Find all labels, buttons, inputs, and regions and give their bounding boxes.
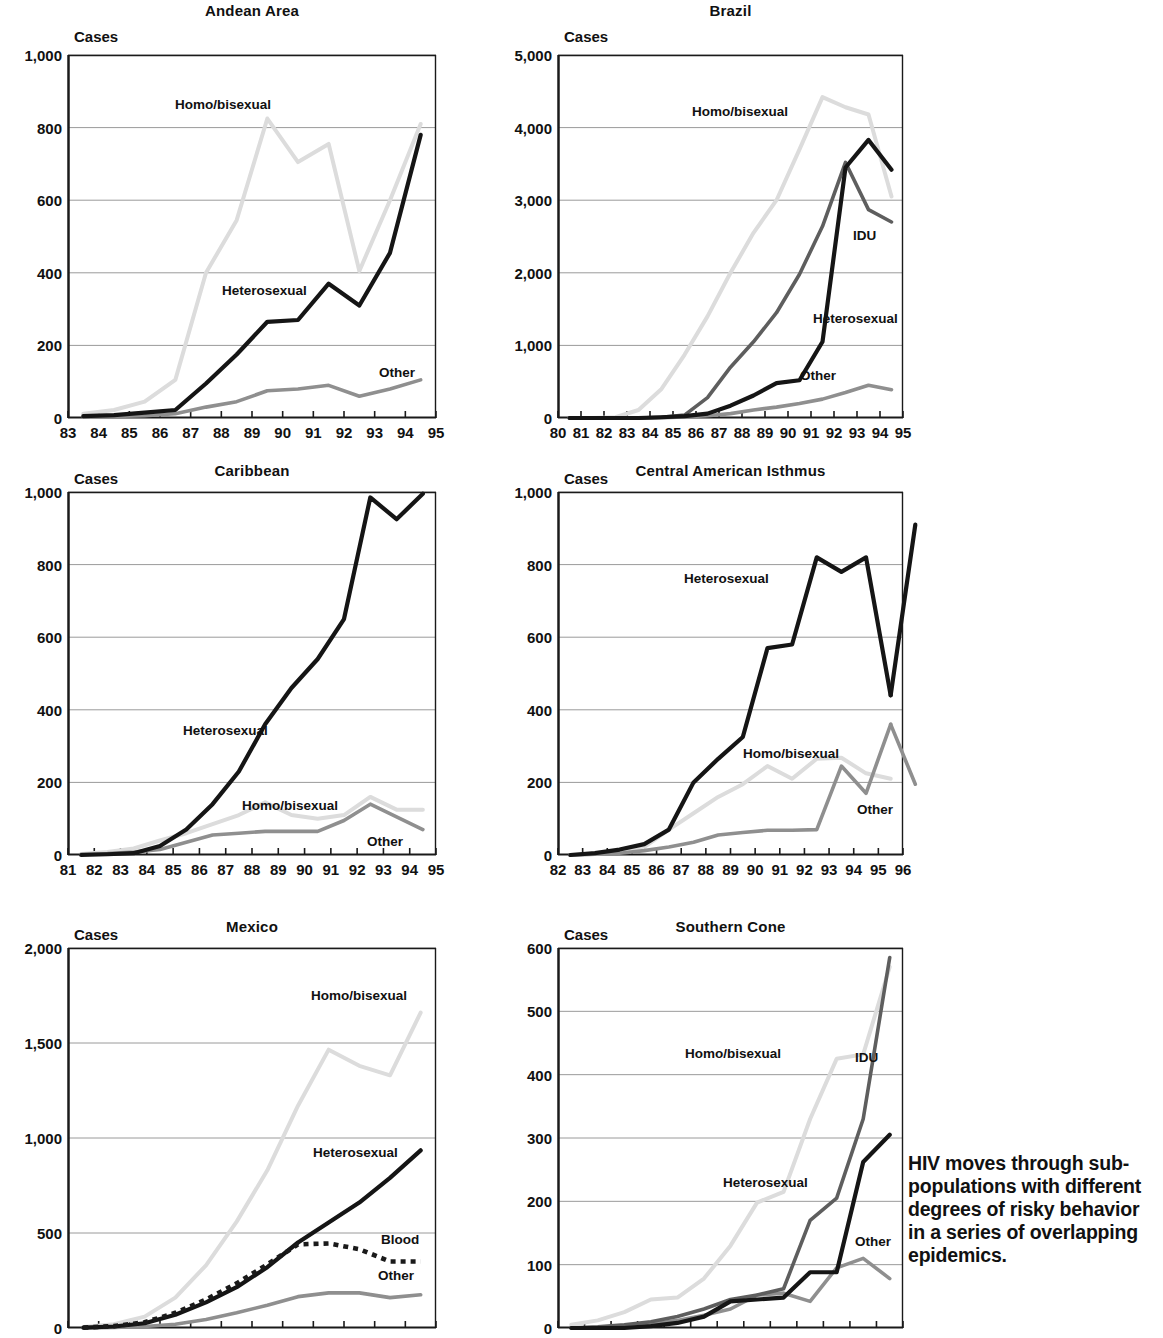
x-tick-label: 93 (375, 861, 392, 878)
series-label: Heterosexual (222, 283, 307, 298)
x-tick-label: 82 (596, 424, 613, 441)
y-tick-label: 200 (2, 774, 62, 791)
series-label: Homo/bisexual (692, 104, 788, 119)
plot-svg (68, 492, 436, 881)
x-tick-label: 87 (673, 861, 690, 878)
y-tick-label: 0 (492, 410, 552, 427)
caption-line: HIV moves through sub- (908, 1152, 1160, 1175)
y-tick-label: 200 (492, 1193, 552, 1210)
series-label: Heterosexual (813, 311, 898, 326)
y-tick-label: 500 (492, 1003, 552, 1020)
y-tick-label: 0 (492, 1320, 552, 1337)
x-tick-label: 92 (826, 424, 843, 441)
y-tick-label: 1,000 (492, 484, 552, 501)
y-tick-label: 400 (2, 701, 62, 718)
x-tick-label: 87 (182, 424, 199, 441)
x-tick-label: 84 (139, 861, 156, 878)
plot-svg (68, 55, 436, 444)
y-tick-label: 0 (2, 1320, 62, 1337)
x-tick-label: 92 (336, 424, 353, 441)
caption-line: degrees of risky behavior (908, 1198, 1160, 1221)
x-tick-label: 86 (152, 424, 169, 441)
y-tick-label: 200 (2, 337, 62, 354)
y-tick-label: 0 (2, 410, 62, 427)
x-tick-label: 83 (574, 861, 591, 878)
x-tick-label: 94 (845, 861, 862, 878)
figure-caption: HIV moves through sub-populations with d… (908, 1152, 1160, 1267)
x-tick-label: 94 (397, 424, 414, 441)
y-tick-label: 2,000 (2, 940, 62, 957)
x-tick-label: 85 (165, 861, 182, 878)
x-tick-label: 80 (550, 424, 567, 441)
x-tick-label: 87 (217, 861, 234, 878)
series-label: Heterosexual (183, 723, 268, 738)
series-label: Other (857, 802, 893, 817)
x-tick-label: 93 (821, 861, 838, 878)
x-tick-label: 94 (401, 861, 418, 878)
plot-area (558, 492, 903, 855)
series-label: Other (367, 834, 403, 849)
y-tick-label: 800 (2, 119, 62, 136)
x-tick-label: 91 (803, 424, 820, 441)
plot-svg (558, 948, 903, 1338)
x-tick-label: 95 (870, 861, 887, 878)
y-tick-label: 1,000 (2, 1130, 62, 1147)
x-tick-label: 84 (599, 861, 616, 878)
x-tick-label: 92 (349, 861, 366, 878)
y-tick-label: 800 (2, 556, 62, 573)
x-tick-label: 81 (573, 424, 590, 441)
y-tick-label: 300 (492, 1130, 552, 1147)
x-tick-label: 90 (274, 424, 291, 441)
x-tick-label: 88 (734, 424, 751, 441)
x-tick-label: 88 (213, 424, 230, 441)
y-tick-label: 600 (492, 629, 552, 646)
x-tick-label: 89 (757, 424, 774, 441)
series-line (570, 140, 892, 418)
series-line (83, 1150, 420, 1327)
series-label: Homo/bisexual (685, 1046, 781, 1061)
panel-title: Mexico (68, 918, 436, 935)
series-line (570, 385, 892, 418)
x-tick-label: 81 (60, 861, 77, 878)
panel-title: Andean Area (68, 2, 436, 19)
series-label: Other (800, 368, 836, 383)
panel-title: Caribbean (68, 462, 436, 479)
caption-line: populations with different (908, 1175, 1160, 1198)
x-tick-label: 90 (747, 861, 764, 878)
y-tick-label: 200 (492, 774, 552, 791)
x-tick-label: 86 (191, 861, 208, 878)
caption-line: in a series of overlapping (908, 1221, 1160, 1244)
series-label: Homo/bisexual (743, 746, 839, 761)
x-tick-label: 85 (624, 861, 641, 878)
series-label: Homo/bisexual (242, 798, 338, 813)
panel-title: Brazil (558, 2, 903, 19)
series-label: IDU (855, 1050, 878, 1065)
x-tick-label: 82 (550, 861, 567, 878)
series-label: Heterosexual (684, 571, 769, 586)
y-axis-caption: Cases (74, 926, 118, 943)
series-line (83, 119, 420, 414)
y-axis-caption: Cases (74, 28, 118, 45)
x-tick-label: 93 (849, 424, 866, 441)
series-line (83, 1243, 420, 1327)
series-label: Other (378, 1268, 414, 1283)
x-tick-label: 92 (796, 861, 813, 878)
y-tick-label: 500 (2, 1225, 62, 1242)
y-tick-label: 5,000 (492, 47, 552, 64)
series-label: Other (855, 1234, 891, 1249)
y-tick-label: 100 (492, 1256, 552, 1273)
series-label: Heterosexual (723, 1175, 808, 1190)
x-tick-label: 93 (366, 424, 383, 441)
y-tick-label: 2,000 (492, 264, 552, 281)
y-tick-label: 0 (492, 847, 552, 864)
series-label: Homo/bisexual (311, 988, 407, 1003)
y-tick-label: 400 (492, 701, 552, 718)
series-line (83, 135, 420, 416)
x-tick-label: 83 (112, 861, 129, 878)
y-tick-label: 400 (492, 1066, 552, 1083)
y-tick-label: 1,500 (2, 1035, 62, 1052)
y-axis-caption: Cases (564, 470, 608, 487)
x-tick-label: 85 (665, 424, 682, 441)
x-tick-label: 95 (428, 861, 445, 878)
